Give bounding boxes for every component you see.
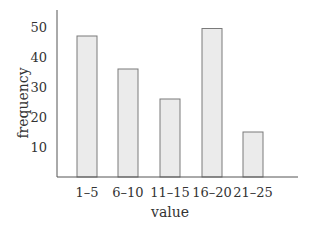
x-tick-label: 21–25 bbox=[233, 185, 273, 200]
y-tick-label: 20 bbox=[30, 110, 47, 125]
y-tick-label: 40 bbox=[30, 50, 47, 65]
x-axis-label: value bbox=[150, 204, 189, 220]
x-tick-labels: 1–56–1011–1516–2021–25 bbox=[75, 185, 272, 200]
y-tick-label: 10 bbox=[30, 140, 47, 155]
y-tick-label: 50 bbox=[30, 20, 47, 35]
bar bbox=[243, 132, 263, 177]
bar bbox=[202, 29, 222, 178]
x-tick-label: 11–15 bbox=[150, 185, 190, 200]
x-tick-label: 1–5 bbox=[75, 185, 98, 200]
bar bbox=[160, 99, 180, 177]
bars bbox=[77, 29, 263, 178]
y-tick-label: 30 bbox=[30, 80, 47, 95]
bar bbox=[118, 69, 138, 177]
x-tick-label: 16–20 bbox=[192, 185, 232, 200]
x-tick-label: 6–10 bbox=[112, 185, 143, 200]
y-axis-label: frequency bbox=[15, 67, 31, 138]
y-tick-labels: 1020304050 bbox=[30, 20, 47, 155]
histogram-chart: 1020304050 1–56–1011–1516–2021–25 value … bbox=[0, 0, 312, 230]
bar bbox=[77, 36, 97, 177]
